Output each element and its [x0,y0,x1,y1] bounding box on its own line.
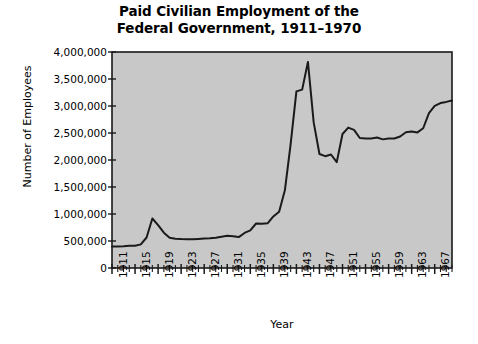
x-tick-label: 1927 [209,251,221,278]
x-tick-label: 1935 [255,251,267,278]
x-tick-label: 1923 [186,251,198,278]
x-tick-label: 1931 [232,251,244,278]
x-tick-label: 1955 [370,251,382,278]
x-tick-label: 1959 [393,251,405,278]
x-tick-label: 1943 [301,251,313,278]
x-tick-label: 1919 [163,251,175,278]
x-tick-label: 1939 [278,251,290,278]
x-axis-title: Year [112,318,452,331]
x-tick-label: 1951 [347,251,359,278]
y-axis-title: Number of Employees [21,37,34,217]
x-tick-label: 1915 [140,251,152,278]
x-tick-label: 1963 [416,251,428,278]
x-axis-tick-labels: 1911191519191923192719311935193919431947… [0,0,478,344]
x-tick-label: 1947 [324,251,336,278]
x-tick-label: 1911 [117,251,129,278]
chart-figure: Paid Civilian Employment of the Federal … [0,0,478,344]
x-tick-label: 1967 [439,251,451,278]
